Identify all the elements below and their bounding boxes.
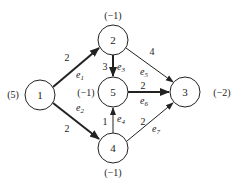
supply-node-4: (−1) [104,167,121,179]
edge-label-e3: e3 [117,61,125,74]
node-3: 3 [170,77,200,107]
weight-e6: 2 [141,80,146,91]
weight-e1: 2 [65,52,70,63]
node-label: 2 [110,34,116,46]
weight-e7: 2 [141,116,146,127]
weight-e5: 4 [150,46,155,57]
supply-node-5: (−1) [77,87,94,99]
edge-label-e6: e6 [140,95,148,108]
node-5: 5 [98,77,128,107]
supply-node-3: (−2) [213,87,230,99]
supply-node-1: (5) [7,89,19,101]
node-2: 2 [98,25,128,55]
edge-e1 [53,48,99,87]
node-4: 4 [98,133,128,163]
node-label: 3 [182,86,188,98]
edge-label-e1: e1 [76,69,84,82]
node-label: 1 [37,89,43,101]
edge-e7 [127,103,173,141]
node-1: 1 [25,80,55,110]
edge-label-e4: e4 [117,113,125,126]
weight-e2: 2 [65,123,70,134]
node-label: 5 [110,86,116,98]
edge-label-e7: e7 [152,123,160,136]
supply-node-2: (−1) [104,10,121,22]
weight-e4: 1 [103,116,108,127]
weight-e3: 3 [103,61,108,72]
network-flow-diagram: 1 2 5 3 4 (5) (−1) (−1) (−2) (−1) 2 2 3 … [0,0,243,187]
edge-label-e2: e2 [76,102,84,115]
edge-label-e5: e5 [140,66,148,79]
node-label: 4 [110,142,116,154]
